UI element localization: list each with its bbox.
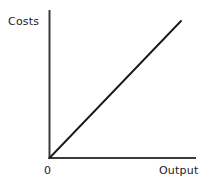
y-axis-label: Costs [8,15,39,28]
origin-tick-label: 0 [44,164,51,177]
x-axis-label: Output [159,164,198,177]
cost-output-chart: Costs 0 Output [0,0,205,186]
